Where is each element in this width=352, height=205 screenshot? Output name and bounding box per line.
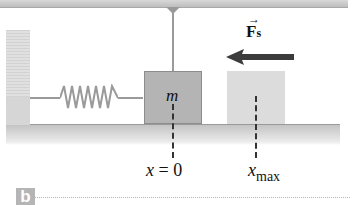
spring-rod-left bbox=[30, 97, 60, 99]
force-subscript: s bbox=[256, 26, 261, 40]
hanging-line bbox=[172, 12, 174, 72]
zero-value: 0 bbox=[173, 160, 182, 180]
vector-arrow-mark: → bbox=[248, 12, 260, 27]
panel-divider bbox=[35, 197, 350, 198]
floor-line bbox=[30, 124, 340, 125]
x-var: x bbox=[146, 160, 154, 180]
max-label: xmax bbox=[248, 160, 280, 181]
mass-label: m bbox=[166, 86, 178, 106]
wall bbox=[6, 30, 30, 97]
max-subscript: max bbox=[256, 169, 280, 184]
panel-label-b: b bbox=[16, 188, 35, 205]
force-arrow-icon bbox=[226, 48, 298, 66]
equals-sign: = bbox=[159, 160, 169, 180]
max-dashed-line bbox=[255, 96, 257, 158]
spring-rod-right bbox=[118, 97, 143, 99]
equilibrium-dashed-line bbox=[172, 104, 174, 158]
equilibrium-label: x = 0 bbox=[146, 160, 182, 181]
wall-base bbox=[6, 97, 30, 125]
force-label: → Fs bbox=[246, 22, 261, 42]
spring-icon bbox=[60, 84, 118, 110]
x-max-var: x bbox=[248, 160, 256, 180]
